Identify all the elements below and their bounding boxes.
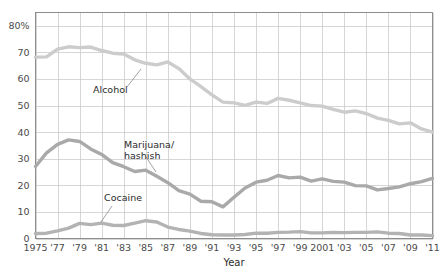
x-tick-label: '95 bbox=[249, 242, 264, 253]
y-axis-tick-labels: 01020304050607080% bbox=[8, 20, 29, 244]
series-annotation-label: Alcohol bbox=[93, 84, 128, 95]
x-tick-label: '81 bbox=[94, 242, 109, 253]
x-axis-tick-labels: 1975'77'79'81'83'85'87'89'91'93'95'97'99… bbox=[23, 242, 439, 253]
series-annotation-label: Cocaine bbox=[104, 192, 142, 203]
chart-canvas: 01020304050607080% 1975'77'79'81'83'85'8… bbox=[0, 0, 440, 269]
y-tick-label: 20 bbox=[17, 180, 29, 191]
x-tick-label: '91 bbox=[205, 242, 220, 253]
x-tick-label: '77 bbox=[50, 242, 65, 253]
x-tick-label: '83 bbox=[116, 242, 131, 253]
series-annotation-label: Marijuana/ bbox=[124, 139, 175, 150]
y-tick-label: 30 bbox=[17, 153, 29, 164]
x-tick-label: '97 bbox=[271, 242, 286, 253]
x-tick-label: '99 bbox=[293, 242, 308, 253]
x-tick-label: 2001 bbox=[310, 242, 334, 253]
y-tick-label: 70 bbox=[17, 47, 29, 58]
y-tick-label: 10 bbox=[17, 206, 29, 217]
y-tick-label: 40 bbox=[17, 127, 29, 138]
series-annotation-label: hashish bbox=[124, 150, 160, 161]
x-tick-label: '07 bbox=[381, 242, 396, 253]
x-tick-label: '87 bbox=[160, 242, 175, 253]
x-tick-label: '05 bbox=[359, 242, 374, 253]
x-tick-label: '09 bbox=[403, 242, 418, 253]
y-tick-label: 80% bbox=[8, 20, 29, 31]
x-tick-label: '93 bbox=[227, 242, 242, 253]
y-tick-label: 60 bbox=[17, 73, 29, 84]
x-tick-label: '79 bbox=[72, 242, 87, 253]
x-tick-label: '11 bbox=[425, 242, 440, 253]
y-tick-label: 50 bbox=[17, 100, 29, 111]
line-chart: 01020304050607080% 1975'77'79'81'83'85'8… bbox=[0, 0, 440, 269]
x-tick-label: '85 bbox=[138, 242, 153, 253]
plot-background bbox=[36, 13, 433, 239]
x-tick-label: 1975 bbox=[23, 242, 47, 253]
x-tick-label: '03 bbox=[337, 242, 352, 253]
x-tick-label: '89 bbox=[183, 242, 198, 253]
x-axis-title: Year bbox=[222, 257, 245, 268]
